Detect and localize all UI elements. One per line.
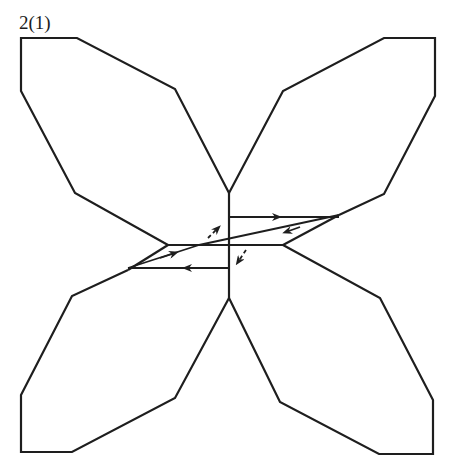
arrow-dashed-up xyxy=(208,228,218,238)
lobe-bottom-left xyxy=(21,270,229,452)
lobe-top-right xyxy=(229,38,435,215)
lobe-top-left xyxy=(21,38,229,245)
arrow-right-diag xyxy=(286,227,300,232)
arrow-left-diag xyxy=(160,253,175,258)
lobe-bottom-right xyxy=(229,245,433,454)
diagram xyxy=(0,0,455,470)
loop-right-diag xyxy=(199,215,339,245)
arrow-dashed-down xyxy=(238,250,246,262)
